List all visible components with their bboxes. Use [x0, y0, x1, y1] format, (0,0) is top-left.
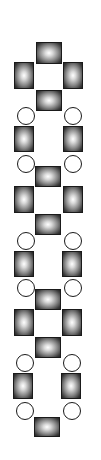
shaded-square-node — [14, 251, 34, 277]
shaded-square-node — [36, 42, 62, 64]
shaded-square-node — [36, 90, 62, 111]
shaded-square-node — [14, 126, 34, 152]
shaded-square-node — [13, 373, 33, 399]
open-circle-node — [16, 402, 34, 420]
shaded-square-node — [35, 214, 61, 235]
shaded-square-node — [14, 309, 34, 336]
open-circle-node — [17, 279, 35, 297]
open-circle-node — [64, 279, 82, 297]
shaded-square-node — [62, 309, 82, 336]
shaded-square-node — [35, 289, 61, 310]
open-circle-node — [17, 107, 35, 125]
open-circle-node — [16, 354, 34, 372]
open-circle-node — [63, 354, 81, 372]
open-circle-node — [64, 232, 82, 250]
shaded-square-node — [61, 373, 81, 399]
shaded-square-node — [63, 126, 83, 152]
shaded-square-node — [62, 251, 82, 277]
node-chain-diagram — [0, 0, 101, 460]
shaded-square-node — [34, 417, 60, 437]
open-circle-node — [17, 155, 35, 173]
open-circle-node — [17, 232, 35, 250]
open-circle-node — [63, 402, 81, 420]
shaded-square-node — [63, 62, 83, 89]
shaded-square-node — [35, 166, 61, 187]
shaded-square-node — [14, 62, 34, 89]
shaded-square-node — [63, 186, 83, 213]
open-circle-node — [64, 155, 82, 173]
open-circle-node — [64, 107, 82, 125]
shaded-square-node — [14, 186, 34, 213]
shaded-square-node — [35, 337, 61, 358]
